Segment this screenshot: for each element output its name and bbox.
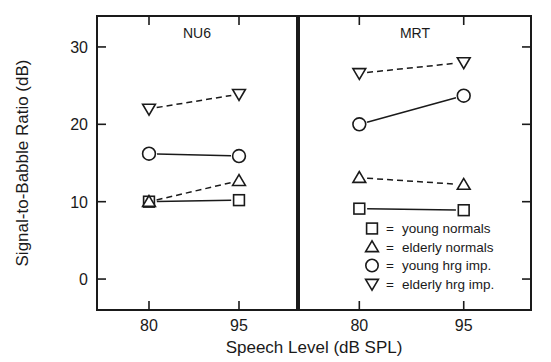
x-tick-label: 95: [455, 317, 473, 334]
series-elderly-normals: [353, 171, 470, 189]
legend-label: elderly hrg imp.: [402, 277, 494, 292]
legend-label: young hrg imp.: [402, 258, 491, 273]
x-tick-label: 95: [230, 317, 248, 334]
y-tick-label: 0: [79, 271, 88, 288]
series-line: [367, 209, 456, 210]
series-young-normals: [354, 203, 469, 215]
y-tick-label: 20: [70, 116, 88, 133]
legend-equals: =: [386, 240, 394, 255]
young-normals-square-marker: [458, 205, 469, 216]
figure-container: 0102030Signal-to-Babble Ratio (dB)809580…: [0, 0, 551, 362]
elderly-hrg-imp-triangle-down-marker: [143, 104, 156, 115]
legend-label: elderly normals: [402, 240, 494, 255]
x-tick-label: 80: [350, 317, 368, 334]
legend-equals: =: [386, 277, 394, 292]
legend-circle-marker: [366, 259, 378, 271]
series-line: [157, 183, 232, 200]
young-hrg-imp-circle-marker: [143, 147, 156, 160]
legend-item-young-normals: =young normals: [367, 221, 491, 236]
legend-triangle-down-marker: [366, 279, 379, 290]
legend-equals: =: [386, 258, 394, 273]
x-tick-label: 80: [140, 317, 158, 334]
elderly-normals-triangle-up-marker: [353, 171, 366, 182]
legend-item-elderly-hrg-imp-: =elderly hrg imp.: [366, 277, 495, 292]
y-axis-title: Signal-to-Babble Ratio (dB): [13, 60, 32, 267]
series-elderly-hrg-imp: [143, 89, 246, 115]
legend-item-young-hrg-imp-: =young hrg imp.: [366, 258, 492, 273]
series-line: [367, 178, 456, 184]
signal-to-babble-ratio-chart: 0102030Signal-to-Babble Ratio (dB)809580…: [0, 0, 551, 362]
young-normals-square-marker: [234, 195, 245, 206]
panel-nu6: NU6: [143, 25, 246, 207]
series-line: [367, 98, 456, 122]
young-normals-square-marker: [354, 203, 365, 214]
elderly-hrg-imp-triangle-down-marker: [353, 69, 366, 80]
legend-square-marker: [367, 223, 378, 234]
series-line: [157, 154, 231, 156]
elderly-normals-triangle-up-marker: [457, 178, 470, 189]
elderly-hrg-imp-triangle-down-marker: [233, 89, 246, 100]
series-young-normals: [144, 195, 245, 207]
y-tick-label: 30: [70, 39, 88, 56]
young-hrg-imp-circle-marker: [353, 118, 366, 131]
legend-label: young normals: [402, 221, 491, 236]
legend: =young normals=elderly normals=young hrg…: [366, 221, 495, 292]
panel-frame-nu6: [97, 16, 297, 310]
legend-triangle-up-marker: [366, 241, 379, 252]
elderly-hrg-imp-triangle-down-marker: [457, 58, 470, 69]
series-elderly-hrg-imp: [353, 58, 470, 80]
series-young-hrg-imp: [353, 89, 470, 130]
panel-mrt: MRT: [353, 25, 470, 216]
series-line: [157, 200, 231, 201]
y-tick-label: 10: [70, 194, 88, 211]
panel-title-mrt: MRT: [400, 25, 431, 41]
legend-equals: =: [386, 221, 394, 236]
elderly-normals-triangle-up-marker: [233, 175, 246, 186]
legend-item-elderly-normals: =elderly normals: [366, 240, 494, 255]
series-line: [367, 63, 456, 72]
young-hrg-imp-circle-marker: [233, 150, 246, 163]
young-hrg-imp-circle-marker: [457, 89, 470, 102]
x-axis-title: Speech Level (dB SPL): [226, 338, 403, 357]
panel-title-nu6: NU6: [183, 25, 211, 41]
series-young-hrg-imp: [143, 147, 246, 162]
series-line: [157, 95, 232, 107]
